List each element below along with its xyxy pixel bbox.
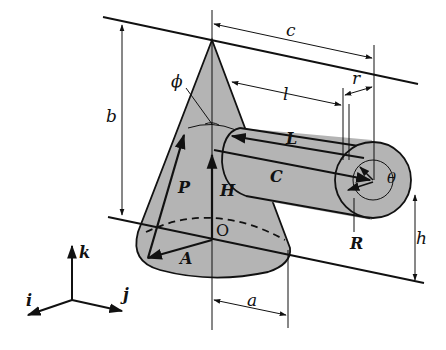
label-R: R	[349, 234, 363, 253]
dim-r	[345, 87, 372, 95]
axis-i	[28, 300, 72, 315]
label-P: P	[177, 178, 191, 197]
cone-cylinder-diagram: b c l r h a P H A L C R ϕ θ O k i j	[0, 0, 446, 350]
label-origin: O	[216, 221, 229, 240]
label-a: a	[247, 290, 257, 310]
axis-triad	[28, 246, 122, 315]
label-H: H	[219, 181, 236, 200]
label-A: A	[178, 249, 192, 268]
label-r: r	[352, 68, 361, 88]
label-axis-j: j	[120, 285, 129, 304]
label-axis-i: i	[26, 291, 32, 310]
top-plane-line	[103, 17, 418, 84]
label-c: c	[286, 20, 296, 40]
label-theta: θ	[387, 169, 396, 187]
label-b: b	[106, 106, 117, 126]
label-l: l	[283, 84, 288, 104]
axis-j	[72, 300, 122, 311]
label-C: C	[270, 167, 283, 186]
label-phi: ϕ	[171, 71, 183, 91]
label-axis-k: k	[79, 243, 90, 262]
label-L: L	[285, 129, 297, 148]
label-h: h	[416, 228, 427, 248]
